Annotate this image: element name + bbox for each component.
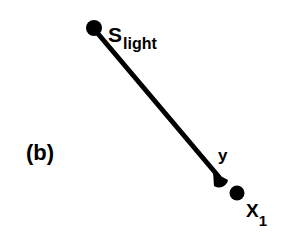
- surface-patch-icon: [213, 172, 228, 188]
- observer-point-icon: [230, 186, 245, 201]
- panel-label: (b): [26, 140, 54, 165]
- source-point-icon: [86, 20, 102, 36]
- source-label: Slight: [108, 23, 157, 52]
- diagram-svg: Slight y X1 (b): [0, 0, 284, 238]
- diagram-canvas: Slight y X1 (b): [0, 0, 284, 238]
- surface-point-label: y: [218, 146, 228, 165]
- observer-label: X1: [246, 200, 267, 229]
